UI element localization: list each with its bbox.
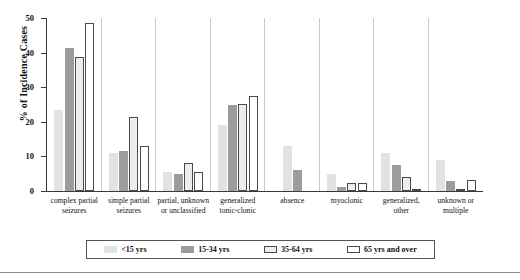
legend-label: 15-34 yrs (198, 245, 229, 254)
medium-gray-filled-swatch (181, 246, 194, 253)
y-tick-label-10: 10 (26, 152, 35, 161)
y-tick-label-50: 50 (26, 14, 35, 23)
y-tick-10: 10 (41, 156, 46, 157)
y-tick-label-30: 30 (26, 83, 35, 92)
bar (446, 181, 455, 191)
bar (109, 153, 118, 191)
outlined-white-swatch (347, 246, 360, 253)
bar (456, 189, 465, 191)
bar (467, 180, 476, 191)
x-axis-category-labels: complex partial seizuressimple partial s… (47, 196, 483, 217)
y-tick-label-40: 40 (26, 48, 35, 57)
bar (75, 57, 84, 191)
bar (412, 189, 421, 191)
bar-group (374, 18, 429, 191)
legend-item[interactable]: 35-64 yrs (264, 245, 312, 254)
bar (436, 160, 445, 191)
bar (283, 146, 292, 191)
bar-group (156, 18, 211, 191)
bar-groups (47, 18, 483, 191)
bar-group (47, 18, 102, 191)
y-tick-30: 30 (41, 87, 46, 88)
bar (65, 48, 74, 191)
chart-legend: <15 yrs15-34 yrs35-64 yrs65 yrs and over (86, 240, 435, 259)
bar (119, 151, 128, 191)
bar (293, 170, 302, 191)
bar (194, 172, 203, 191)
y-tick-50: 50 (41, 18, 46, 19)
bar (381, 153, 390, 191)
y-tick-0: 0 (41, 191, 46, 192)
legend-label: 65 yrs and over (364, 245, 417, 254)
light-gray-filled-swatch (104, 246, 117, 253)
legend-item[interactable]: 65 yrs and over (347, 245, 417, 254)
bar (347, 183, 356, 191)
bar (337, 187, 346, 191)
legend-label: <15 yrs (121, 245, 146, 254)
bar (327, 174, 336, 191)
bar (402, 177, 411, 191)
category-label: generalized, other (374, 196, 429, 217)
bar (392, 165, 401, 191)
footer-divider (0, 272, 520, 273)
category-label: complex partial seizures (47, 196, 102, 217)
legend-item[interactable]: 15-34 yrs (181, 245, 229, 254)
bar (228, 105, 237, 192)
category-label: absence (265, 196, 320, 217)
bar (140, 146, 149, 191)
bar (54, 110, 63, 191)
bar-group (320, 18, 375, 191)
category-label: partial, unknown or unclassified (156, 196, 211, 217)
bar-group (265, 18, 320, 191)
incidence-bar-chart: % of Incidence Cases 01020304050 complex… (0, 0, 520, 280)
y-tick-label-20: 20 (26, 118, 35, 127)
bar (249, 96, 258, 191)
category-label: simple partial seizures (102, 196, 157, 217)
x-axis-line (46, 191, 483, 192)
bar (174, 174, 183, 191)
y-tick-40: 40 (41, 53, 46, 54)
bar (85, 23, 94, 192)
plot-area: 01020304050 (46, 18, 483, 192)
bar-group (429, 18, 484, 191)
bar (238, 104, 247, 191)
legend-label: 35-64 yrs (281, 245, 312, 254)
category-label: myoclonic (320, 196, 375, 217)
bar (129, 117, 138, 191)
category-label: unknown or multiple (429, 196, 484, 217)
bar-group (211, 18, 266, 191)
legend-item[interactable]: <15 yrs (104, 245, 146, 254)
bar (163, 172, 172, 191)
bar (218, 125, 227, 191)
bar (358, 183, 367, 191)
bar-group (102, 18, 157, 191)
bar (184, 163, 193, 191)
y-tick-20: 20 (41, 122, 46, 123)
category-label: generalized tonic-clonic (211, 196, 266, 217)
y-tick-label-0: 0 (30, 187, 34, 196)
outlined-light-swatch (264, 246, 277, 253)
